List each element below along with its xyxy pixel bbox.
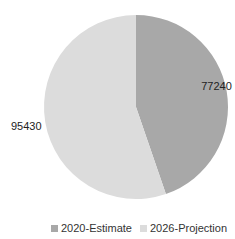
pie-chart: 77240 95430 2020-Estimate 2026-Projectio… — [0, 0, 235, 239]
pie-slices — [44, 15, 228, 199]
legend-swatch-2020-estimate — [51, 225, 58, 232]
legend-swatch-2026-projection — [140, 225, 147, 232]
data-label-2020-estimate: 77240 — [201, 80, 232, 92]
data-label-2026-projection: 95430 — [11, 120, 42, 132]
legend-label-2020-estimate: 2020-Estimate — [61, 222, 132, 234]
legend-label-2026-projection: 2026-Projection — [150, 222, 227, 234]
legend: 2020-Estimate 2026-Projection — [51, 222, 227, 234]
